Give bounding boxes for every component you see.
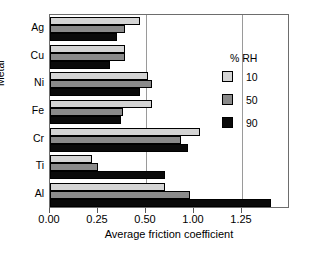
bar-Al-10	[50, 183, 165, 191]
y-tick-label-Ti: Ti	[0, 160, 44, 170]
x-tick-label: 0.25	[77, 213, 117, 225]
y-tick-label-Ag: Ag	[0, 22, 44, 32]
friction-coefficient-bar-chart: Metal AgCuNiFeCrTiAl 0.000.250.501.001.2…	[0, 0, 314, 255]
bar-Fe-50	[50, 108, 123, 116]
y-tick-label-Ni: Ni	[0, 77, 44, 87]
y-tick-label-Cu: Cu	[0, 50, 44, 60]
bar-Al-90	[50, 199, 271, 207]
y-tick-label-Al: Al	[0, 188, 44, 198]
bar-Ag-90	[50, 33, 117, 41]
bar-Ni-10	[50, 72, 148, 80]
legend-swatch-50	[222, 94, 233, 105]
y-tick-label-Fe: Fe	[0, 105, 44, 115]
x-tick-label: 1.00	[173, 213, 213, 225]
legend-label-10: 10	[246, 71, 258, 83]
legend-label-50: 50	[246, 94, 258, 106]
legend-swatch-10	[222, 71, 233, 82]
x-axis-title: Average friction coefficient	[49, 228, 289, 240]
bar-Cu-50	[50, 53, 125, 61]
bar-Cu-90	[50, 61, 110, 69]
bar-Fe-90	[50, 116, 121, 124]
x-tick-label: 0.00	[29, 213, 69, 225]
bar-Ti-50	[50, 163, 98, 171]
bar-Cr-90	[50, 144, 188, 152]
bar-Ni-90	[50, 88, 140, 96]
bar-Ni-50	[50, 80, 152, 88]
y-tick-label-Cr: Cr	[0, 133, 44, 143]
legend-swatch-90	[222, 117, 233, 128]
x-tick-label: 0.50	[125, 213, 165, 225]
bar-Ag-50	[50, 25, 125, 33]
bar-Ti-90	[50, 171, 165, 179]
bar-Cr-50	[50, 136, 181, 144]
legend-title: % RH	[230, 52, 257, 64]
legend-label-90: 90	[246, 117, 258, 129]
x-tick-label: 1.25	[221, 213, 261, 225]
bar-Ag-10	[50, 17, 140, 25]
bar-Ti-10	[50, 155, 92, 163]
bar-Fe-10	[50, 100, 152, 108]
bar-Al-50	[50, 191, 190, 199]
legend: % RH 105090	[218, 52, 284, 130]
bar-Cr-10	[50, 128, 200, 136]
bar-Cu-10	[50, 45, 125, 53]
